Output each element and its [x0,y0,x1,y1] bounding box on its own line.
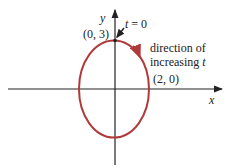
parametric-ellipse-diagram: y x (0, 3) t = 0 direction of increasing… [0,0,236,168]
t-equals-zero: = 0 [128,17,147,31]
x-intercept-label: (2, 0) [153,72,179,86]
y-axis-label: y [99,11,106,25]
t-zero-pointer-icon [117,28,124,37]
start-point-dot [113,39,117,43]
direction-arrow-icon [133,46,139,55]
direction-increasing: increasing [150,55,202,69]
direction-t-variable: t [202,55,206,69]
x-axis-label: x [208,93,215,107]
t-zero-label: t = 0 [125,17,147,31]
direction-label-line2: increasing t [150,55,206,69]
start-point-label: (0, 3) [83,27,109,41]
direction-label-line1: direction of [150,41,206,55]
